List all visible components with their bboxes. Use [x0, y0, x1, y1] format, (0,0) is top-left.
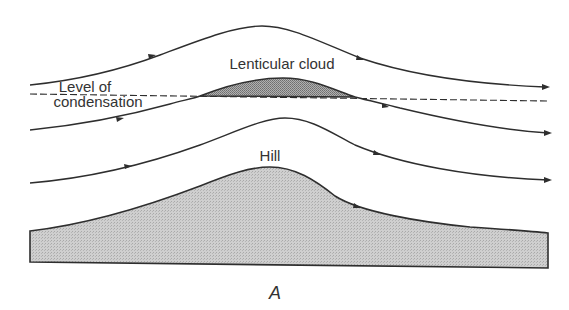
lenticular-cloud-label: Lenticular cloud	[229, 55, 334, 72]
arrow-icon	[544, 130, 552, 136]
arrow-icon	[542, 84, 550, 90]
arrow-icon	[116, 117, 124, 122]
hill-label: Hill	[260, 147, 281, 164]
arrow-icon	[544, 177, 552, 183]
arrow-icon	[353, 203, 361, 208]
hill-terrain	[30, 167, 548, 268]
lenticular-cloud	[200, 78, 355, 97]
panel-label: A	[268, 283, 281, 303]
arrow-icon	[356, 55, 364, 60]
arrow-icon	[124, 164, 132, 169]
lenticular-cloud-diagram: Lenticular cloud Level of condensation H…	[0, 0, 569, 310]
arrow-icon	[373, 150, 381, 155]
level-of-condensation-label-line2: condensation	[53, 93, 142, 110]
